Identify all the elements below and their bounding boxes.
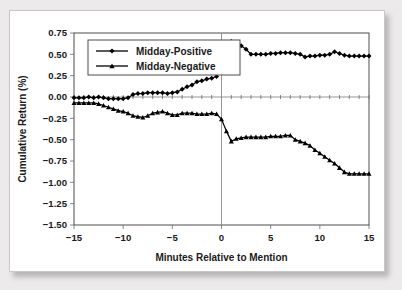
data-point-marker	[347, 54, 352, 59]
data-point-marker	[101, 95, 106, 100]
data-point-marker	[308, 54, 313, 59]
data-point-marker	[204, 77, 209, 82]
data-point-marker	[72, 95, 77, 100]
data-point-marker	[362, 54, 367, 59]
x-axis-title: Minutes Relative to Mention	[155, 252, 287, 263]
data-point-marker	[268, 51, 273, 56]
data-point-marker	[322, 53, 327, 58]
data-point-marker	[293, 51, 298, 56]
data-point-marker	[145, 90, 150, 95]
y-tick-label: −0.25	[43, 113, 68, 124]
data-point-marker	[199, 78, 204, 83]
y-tick-label: −0.50	[43, 134, 67, 145]
data-point-marker	[180, 87, 185, 92]
data-point-marker	[86, 95, 91, 100]
data-point-marker	[140, 91, 145, 96]
data-point-marker	[135, 91, 140, 96]
data-point-marker	[303, 54, 308, 59]
x-tick-label: 10	[314, 232, 325, 243]
x-tick-label: −10	[115, 232, 131, 243]
data-point-marker	[175, 89, 180, 94]
data-point-marker	[337, 51, 342, 56]
y-tick-label: 0.00	[48, 91, 67, 102]
data-point-marker	[76, 95, 81, 100]
x-tick-label: −15	[66, 232, 83, 243]
y-tick-label: −1.00	[43, 177, 67, 188]
x-tick-label: 15	[364, 232, 375, 243]
data-point-marker	[224, 129, 229, 134]
y-tick-label: −1.25	[43, 198, 68, 209]
data-point-marker	[209, 76, 214, 81]
data-point-marker	[317, 53, 322, 58]
data-point-marker	[253, 52, 258, 57]
y-tick-label: 0.50	[48, 49, 67, 60]
data-point-marker	[273, 51, 278, 56]
data-point-marker	[165, 91, 170, 96]
data-point-marker	[367, 54, 372, 59]
data-point-marker	[263, 52, 268, 57]
data-point-marker	[170, 90, 175, 95]
figure-root: 0.750.500.250.00−0.25−0.50−0.75−1.00−1.2…	[0, 0, 402, 290]
data-point-marker	[278, 50, 283, 55]
data-point-marker	[258, 52, 263, 57]
y-tick-label: 0.75	[48, 27, 67, 38]
data-point-marker	[312, 54, 317, 59]
data-point-marker	[185, 84, 190, 89]
legend-item-label: Midday-Negative	[136, 61, 216, 72]
chart-panel: 0.750.500.250.00−0.25−0.50−0.75−1.00−1.2…	[9, 10, 385, 272]
y-axis-tick-labels: 0.750.500.250.00−0.25−0.50−0.75−1.00−1.2…	[43, 27, 68, 230]
legend-item-label: Midday-Positive	[136, 46, 213, 57]
data-point-marker	[283, 50, 288, 55]
data-point-marker	[298, 52, 303, 57]
x-tick-label: 5	[268, 232, 274, 243]
data-point-marker	[288, 50, 293, 55]
y-tick-label: 0.25	[48, 70, 67, 81]
data-point-marker	[332, 49, 337, 54]
y-tick-label: −1.50	[43, 219, 67, 230]
data-point-marker	[327, 52, 332, 57]
x-axis-tick-labels: −15−10−5051015	[66, 232, 375, 243]
data-point-marker	[81, 95, 86, 100]
chart-legend: Midday-PositiveMidday-Negative	[88, 40, 240, 75]
x-tick-label: −5	[167, 232, 179, 243]
data-point-marker	[155, 90, 160, 95]
x-tick-label: 0	[219, 232, 224, 243]
data-point-marker	[150, 90, 155, 95]
y-tick-label: −0.75	[43, 155, 68, 166]
data-point-marker	[91, 95, 96, 100]
data-point-marker	[160, 90, 165, 95]
data-point-marker	[352, 54, 357, 59]
data-point-marker	[96, 95, 101, 100]
chart-plot: 0.750.500.250.00−0.25−0.50−0.75−1.00−1.2…	[10, 11, 384, 271]
data-point-marker	[357, 54, 362, 59]
y-axis-title: Cumulative Return (%)	[17, 75, 28, 182]
data-point-marker	[342, 53, 347, 58]
